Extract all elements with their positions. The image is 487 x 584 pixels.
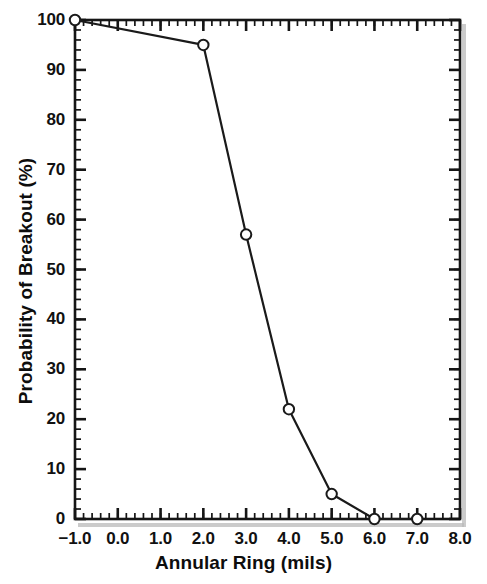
y-tick-label: 0 bbox=[0, 509, 65, 529]
plot-canvas bbox=[0, 0, 487, 584]
x-tick-label: 0.0 bbox=[106, 529, 129, 549]
x-tick-label: 8.0 bbox=[448, 529, 471, 549]
x-tick-label: 7.0 bbox=[406, 529, 429, 549]
plot-frame bbox=[75, 20, 460, 519]
y-axis-title: Probability of Breakout (%) bbox=[15, 131, 37, 431]
x-tick-label: −1.0 bbox=[59, 529, 92, 549]
x-tick-label: 6.0 bbox=[363, 529, 386, 549]
y-tick-label: 100 bbox=[0, 10, 65, 30]
y-tick-label: 10 bbox=[0, 459, 65, 479]
x-tick-label: 1.0 bbox=[149, 529, 172, 549]
x-tick-label: 2.0 bbox=[192, 529, 215, 549]
x-axis-title: Annular Ring (mils) bbox=[0, 552, 487, 574]
x-tick-label: 5.0 bbox=[320, 529, 343, 549]
chart-figure: 0102030405060708090100 −1.00.01.02.03.04… bbox=[0, 0, 487, 584]
y-tick-label: 90 bbox=[0, 60, 65, 80]
x-tick-label: 4.0 bbox=[277, 529, 300, 549]
x-tick-label: 3.0 bbox=[235, 529, 258, 549]
y-tick-label: 80 bbox=[0, 110, 65, 130]
